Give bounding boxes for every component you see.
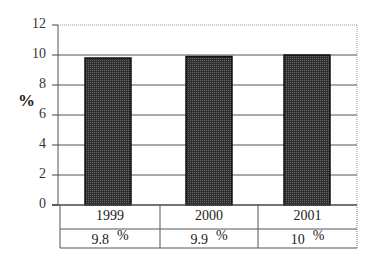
bars xyxy=(85,55,330,205)
table-value-2001: 10% xyxy=(258,232,357,248)
y-tick-marks xyxy=(52,25,58,205)
table-value-2000: 9.9% xyxy=(160,232,258,248)
table-year-1999: 1999 xyxy=(60,208,160,224)
chart-canvas xyxy=(0,0,377,265)
y-tick-label: 10 xyxy=(16,46,46,62)
y-tick-label: 12 xyxy=(16,16,46,32)
value-text: 10 xyxy=(291,232,305,247)
value-text: 9.9 xyxy=(190,232,208,247)
bar-2001 xyxy=(284,55,330,205)
bar-1999 xyxy=(85,58,131,205)
percent-unit: % xyxy=(216,228,228,243)
y-tick-label: 8 xyxy=(16,76,46,92)
table-year-2000: 2000 xyxy=(160,208,258,224)
table-year-2001: 2001 xyxy=(258,208,357,224)
y-tick-label: 0 xyxy=(16,196,46,212)
bar-2000 xyxy=(186,57,232,206)
percent-unit: % xyxy=(313,228,325,243)
y-tick-label: 2 xyxy=(16,166,46,182)
bar-chart: 024681012 % 1999 2000 2001 9.8% 9.9% 10% xyxy=(0,0,377,265)
percent-unit: % xyxy=(117,228,129,243)
y-axis-label: % xyxy=(18,91,35,111)
value-text: 9.8 xyxy=(91,232,109,247)
table-value-1999: 9.8% xyxy=(60,232,160,248)
y-tick-label: 4 xyxy=(16,136,46,152)
